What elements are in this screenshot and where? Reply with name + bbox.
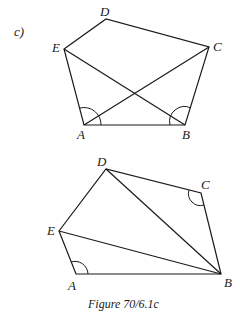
diagonal-ac [84, 47, 209, 125]
vertex-label-d: D [96, 154, 107, 169]
geometry-figure: c) D E C A B D C E A B Figure 70/6.1c [0, 0, 240, 323]
figure-caption: Figure 70/6.1c [87, 297, 160, 311]
vertex-label-d: D [99, 4, 110, 19]
diagonal-eb [64, 49, 185, 125]
vertex-label-e: E [51, 40, 60, 55]
vertex-label-e: E [46, 223, 55, 238]
vertex-label-b: B [182, 127, 190, 142]
pentagon-figure-1: D E C A B [51, 4, 222, 142]
pentagon-outline [59, 169, 221, 274]
vertex-label-c: C [201, 177, 210, 192]
part-label: c) [14, 24, 24, 39]
vertex-label-c: C [213, 39, 222, 54]
vertex-label-b: B [224, 275, 232, 290]
vertex-label-a: A [67, 278, 76, 293]
vertex-label-a: A [76, 127, 85, 142]
pentagon-outline [64, 19, 209, 125]
pentagon-figure-2: D C E A B [46, 154, 232, 293]
